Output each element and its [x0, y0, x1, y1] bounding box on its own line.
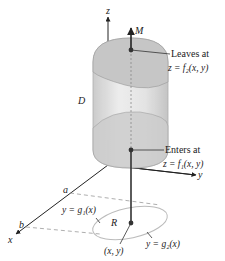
base-region-r [26, 193, 170, 246]
region-r-label: R [110, 217, 117, 228]
curve-g1-label: y = g₁(x) [61, 205, 96, 216]
z-axis-label: z [105, 5, 110, 16]
x-axis-label: x [7, 234, 13, 245]
y-axis-label: y [197, 169, 203, 180]
solid-d-label: D [77, 95, 86, 106]
bound-b-label: b [19, 219, 24, 230]
triple-integral-diagram: z M Leaves at z = f₂(x, y) D Enters at z… [0, 0, 225, 261]
curve-g2-label: y = g₂(x) [145, 239, 180, 250]
leaves-equation: z = f₂(x, y) [167, 63, 208, 74]
point-xy-label: (x, y) [104, 246, 124, 257]
line-m-label: M [134, 25, 144, 36]
leaves-title: Leaves at [171, 48, 209, 59]
x-axis [16, 165, 108, 234]
enters-title: Enters at [165, 144, 200, 155]
bound-a-label: a [63, 184, 68, 195]
